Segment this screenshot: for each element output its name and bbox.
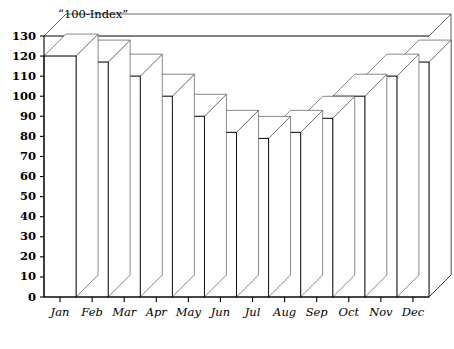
- x-axis-category-label-jan: Jan: [49, 305, 70, 319]
- bar-chart-canvas: 0102030405060708090100110120130 JanFebMa…: [0, 0, 454, 349]
- x-axis-category-label-feb: Feb: [80, 305, 103, 319]
- bar-side-face: [76, 34, 98, 297]
- x-axis-category-label-oct: Oct: [339, 305, 360, 319]
- bar-side-face: [397, 54, 419, 297]
- bar-side-face: [237, 110, 259, 297]
- y-axis-tick-label: 120: [12, 49, 36, 63]
- y-axis-tick-label: 130: [12, 29, 36, 43]
- y-axis-tick-label: 90: [20, 109, 36, 123]
- y-axis-tick-label: 60: [20, 169, 36, 183]
- x-axis-category-label-dec: Dec: [401, 305, 425, 319]
- y-axis-tick-label: 30: [20, 229, 36, 243]
- x-axis-category-label-jun: Jun: [209, 305, 230, 319]
- y-axis-tick-label: 0: [28, 290, 36, 304]
- y-axis-tick-label: 110: [12, 69, 36, 83]
- y-axis-tick-label: 20: [20, 249, 36, 263]
- x-axis-category-label-jul: Jul: [243, 305, 261, 319]
- y-axis-tick-label: 70: [20, 149, 36, 163]
- y-axis-tick-label: 100: [12, 89, 36, 103]
- bar-front-face: [44, 56, 76, 297]
- y-axis-tick-label: 80: [20, 129, 36, 143]
- chart-figure: 0102030405060708090100110120130 JanFebMa…: [0, 0, 454, 349]
- bar-side-face: [172, 74, 194, 297]
- bar-jan: [44, 34, 98, 297]
- y-axis-tick-label: 10: [20, 269, 36, 283]
- bar-side-face: [333, 96, 355, 297]
- y-axis-tick-label: 50: [20, 189, 36, 203]
- y-axis-tick-label: 40: [20, 209, 36, 223]
- x-axis-category-label-apr: Apr: [145, 305, 169, 319]
- bar-side-face: [108, 40, 130, 297]
- bars-group: [44, 34, 451, 297]
- y-axis-tick-label-group: 0102030405060708090100110120130: [12, 29, 36, 304]
- chart-title: “100-Index”: [58, 7, 128, 21]
- x-axis-category-label-group: JanFebMarAprMayJunJulAugSepOctNovDec: [49, 305, 425, 319]
- bar-side-face: [140, 54, 162, 297]
- x-axis-category-label-mar: Mar: [111, 305, 138, 319]
- bar-side-face: [204, 94, 226, 297]
- bar-side-face: [429, 40, 451, 297]
- bar-side-face: [365, 74, 387, 297]
- bar-side-face: [269, 116, 291, 297]
- bar-side-face: [301, 110, 323, 297]
- x-axis-category-label-aug: Aug: [272, 305, 296, 319]
- x-axis-category-label-nov: Nov: [368, 305, 393, 319]
- x-axis-category-label-sep: Sep: [306, 305, 329, 319]
- x-axis-category-label-may: May: [175, 305, 202, 319]
